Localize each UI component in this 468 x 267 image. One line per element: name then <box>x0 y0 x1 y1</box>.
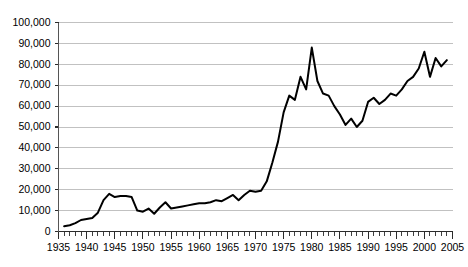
y-axis-tick-label: 10,000 <box>18 204 50 216</box>
y-axis-tick-label: 90,000 <box>18 37 50 49</box>
x-axis-tick-label: 1990 <box>356 241 380 253</box>
x-axis-tick-label: 1945 <box>103 241 127 253</box>
x-axis-tick-labels: 1935194019451950195519601965197019751980… <box>47 241 465 253</box>
x-axis-tick-label: 1965 <box>216 241 240 253</box>
line-chart: 010,00020,00030,00040,00050,00060,00070,… <box>0 0 468 267</box>
x-axis-tick-label: 2000 <box>413 241 437 253</box>
x-axis-tick-label: 1935 <box>47 241 71 253</box>
y-axis-tick-label: 100,000 <box>13 16 51 28</box>
y-axis-tick-label: 70,000 <box>18 78 50 90</box>
x-axis-tick-label: 1985 <box>328 241 352 253</box>
y-axis-tick-label: 40,000 <box>18 141 50 153</box>
chart-canvas: 010,00020,00030,00040,00050,00060,00070,… <box>0 0 468 267</box>
data-line-series-1 <box>64 48 447 227</box>
x-axis-tick-label: 1955 <box>159 241 183 253</box>
x-axis-tick-label: 1960 <box>188 241 212 253</box>
y-axis-tick-labels: 010,00020,00030,00040,00050,00060,00070,… <box>13 16 51 237</box>
x-axis-tick-label: 2005 <box>441 241 465 253</box>
y-axis-tick-label: 50,000 <box>18 120 50 132</box>
x-axis-tick-label: 1950 <box>131 241 155 253</box>
y-axis-tick-label: 60,000 <box>18 99 50 111</box>
gridlines <box>55 23 453 232</box>
x-axis-tick-label: 1995 <box>385 241 409 253</box>
y-axis-tick-label: 80,000 <box>18 58 50 70</box>
x-axis-ticks <box>59 232 453 239</box>
x-axis-tick-label: 1980 <box>300 241 324 253</box>
y-axis-tick-label: 30,000 <box>18 162 50 174</box>
x-axis-tick-label: 1975 <box>272 241 296 253</box>
y-axis-tick-label: 0 <box>45 225 51 237</box>
y-axis-tick-label: 20,000 <box>18 183 50 195</box>
x-axis-tick-label: 1940 <box>75 241 99 253</box>
x-axis-tick-label: 1970 <box>244 241 268 253</box>
